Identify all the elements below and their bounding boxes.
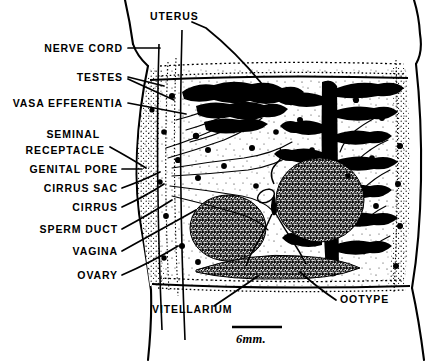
label-cirrus: CIRRUS <box>72 201 118 213</box>
label-genital-pore: GENITAL PORE <box>29 163 118 175</box>
label-ovary: OVARY <box>77 269 118 281</box>
label-testes: TESTES <box>77 71 123 83</box>
label-uterus: UTERUS <box>150 10 199 22</box>
label-ootype: OOTYPE <box>340 293 389 305</box>
label-vasa-efferentia: VASA EFFERENTIA <box>13 97 123 109</box>
label-sperm-duct: SPERM DUCT <box>40 223 118 235</box>
label-cirrus-sac: CIRRUS SAC <box>44 182 118 194</box>
scale-bar-label: 6mm. <box>236 332 266 347</box>
label-vitellarium: VITELLARIUM <box>152 303 232 315</box>
label-nerve-cord: NERVE CORD <box>44 42 123 54</box>
anatomical-figure: UTERUS NERVE CORD TESTES VASA EFFERENTIA… <box>0 0 436 361</box>
label-seminal: SEMINAL <box>46 128 100 140</box>
label-vagina: VAGINA <box>73 245 118 257</box>
label-receptacle: RECEPTACLE <box>26 144 105 156</box>
